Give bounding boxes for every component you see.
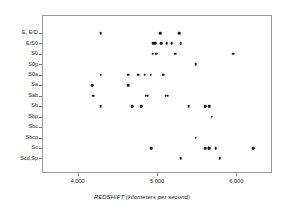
y-axis-label-sbc: Sbc <box>29 124 38 129</box>
y-axis-label-sab: Sab <box>28 93 38 98</box>
y-axis-tick <box>39 158 42 159</box>
data-point <box>137 74 140 77</box>
data-point <box>92 94 95 97</box>
y-axis-tick <box>39 75 42 76</box>
y-axis-tick <box>39 85 42 86</box>
data-point <box>166 94 169 97</box>
data-point <box>170 42 173 45</box>
y-axis-label-sa: Sa <box>31 82 38 87</box>
data-point <box>179 42 182 45</box>
data-point <box>195 63 198 66</box>
data-point <box>179 157 182 160</box>
data-point <box>149 74 152 77</box>
y-axis-label-sb: Sb <box>31 103 38 108</box>
data-point <box>174 53 177 56</box>
data-point <box>214 147 217 150</box>
y-axis-label-s0: S0 <box>31 51 38 56</box>
data-point <box>204 105 207 108</box>
data-point <box>151 53 154 56</box>
x-axis-tick <box>157 173 158 176</box>
y-axis-tick <box>39 33 42 34</box>
data-point <box>127 74 130 77</box>
y-axis-tick <box>39 138 42 139</box>
data-point <box>204 147 207 150</box>
data-point <box>131 105 134 108</box>
data-point <box>187 105 190 108</box>
data-point <box>162 74 165 77</box>
data-point <box>91 84 94 87</box>
data-point <box>155 53 158 56</box>
data-point <box>127 84 130 87</box>
y-axis-label-e-e-d: E, E/D <box>22 30 38 35</box>
x-axis-tick <box>236 173 237 176</box>
data-point <box>140 105 143 108</box>
data-point <box>99 32 102 35</box>
y-axis-label-s0p: S0p <box>28 62 38 67</box>
x-axis-label-5000: 5,000 <box>150 178 164 184</box>
data-point <box>195 136 198 139</box>
x-axis-tick <box>78 173 79 176</box>
data-point <box>210 115 213 118</box>
x-axis-label-6000: 6,000 <box>229 178 243 184</box>
data-point <box>147 94 150 97</box>
scatter-plot-figure: E, E/DE/S0S0S0pS0aSaSabSbSbpSbcSbcpScScd… <box>0 0 284 213</box>
plot-frame <box>42 15 272 173</box>
data-point <box>143 74 146 77</box>
y-axis-label-s0a: S0a <box>28 72 38 77</box>
y-axis-tick <box>39 96 42 97</box>
data-point <box>165 42 168 45</box>
y-axis-label-sc: Sc <box>32 145 38 150</box>
y-axis-label-e-s0: E/S0 <box>26 41 38 46</box>
y-axis-tick <box>39 148 42 149</box>
data-point <box>252 147 255 150</box>
y-axis-tick <box>39 43 42 44</box>
y-axis-tick <box>39 64 42 65</box>
data-point <box>99 105 102 108</box>
y-axis-label-scd-sp: Scd,Sp <box>20 156 38 161</box>
data-point <box>159 32 162 35</box>
data-point <box>208 147 211 150</box>
data-point <box>218 157 221 160</box>
data-point <box>160 42 163 45</box>
y-axis-tick <box>39 106 42 107</box>
y-axis-tick <box>39 127 42 128</box>
y-axis-tick <box>39 54 42 55</box>
data-point <box>178 32 181 35</box>
data-point <box>154 42 157 45</box>
y-axis-tick <box>39 117 42 118</box>
x-axis-title: REDSHIFT (kilometers per second) <box>0 194 284 200</box>
data-point <box>99 74 102 77</box>
y-axis-label-sbp: Sbp <box>28 114 38 119</box>
x-axis-label-4000: 4,000 <box>71 178 85 184</box>
data-point <box>150 147 153 150</box>
data-point <box>232 53 235 56</box>
data-point <box>208 105 211 108</box>
y-axis-label-sbcp: Sbcp <box>26 135 38 140</box>
